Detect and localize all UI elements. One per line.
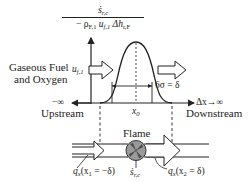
- velocity-label: uf,1: [72, 65, 83, 76]
- inlet-label-line1: Gaseous Fuel: [9, 62, 69, 73]
- heat-flux-in-label: qx(x1 = −δ): [73, 167, 115, 178]
- inflow-arrow: [89, 61, 113, 79]
- y-axis-label: ṡr,c − ρF,1 uf,1 Δhr,F: [60, 4, 146, 30]
- downstream-label: Downstream: [186, 108, 242, 119]
- upstream-label: Upstream: [41, 108, 84, 119]
- source-label: ṡr,c: [130, 168, 140, 179]
- center-label: x0: [132, 107, 139, 118]
- flame-diagram: ṡr,c − ρF,1 uf,1 Δhr,F Gaseous Fuel and …: [0, 0, 250, 182]
- flame-label: Flame: [123, 128, 151, 139]
- heat-flux-out-arrow: [146, 135, 180, 166]
- heat-flux-out-label: qx(x2 = δ): [168, 167, 205, 178]
- width-label: 6σ = δ: [155, 81, 179, 91]
- inlet-label-line2: and Oxygen: [14, 74, 67, 85]
- flame-icon: [126, 141, 146, 161]
- outflow-arrow: [158, 61, 186, 79]
